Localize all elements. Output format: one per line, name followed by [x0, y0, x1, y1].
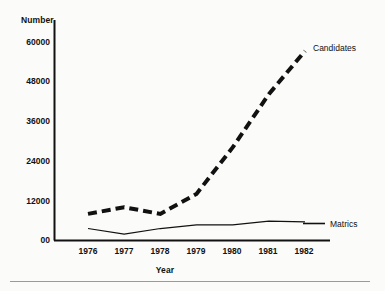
chart-page: Number 60000 48000 36000 24000 12000 00 …	[0, 0, 385, 291]
footer-divider	[10, 281, 370, 282]
series-label-matrics: Matrics	[330, 219, 357, 229]
series-line-matrics	[88, 221, 305, 234]
series-label-candidates: Candidates	[313, 43, 356, 53]
series-line-candidates	[88, 51, 305, 214]
line-chart-figure: Number 60000 48000 36000 24000 12000 00 …	[0, 0, 385, 291]
